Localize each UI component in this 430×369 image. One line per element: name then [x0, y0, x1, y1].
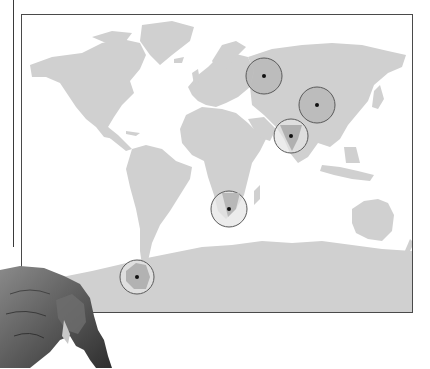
madagascar [254, 185, 260, 205]
dot-icon [262, 74, 266, 78]
dot-icon [289, 134, 293, 138]
dicynodont-illustration [0, 264, 120, 369]
indonesia [320, 165, 374, 181]
iceland [174, 57, 184, 63]
marker-south-africa[interactable] [211, 191, 247, 227]
dot-icon [227, 207, 231, 211]
north-america [30, 39, 146, 139]
philippines-borneo [344, 147, 360, 163]
marker-antarctica[interactable] [120, 260, 154, 294]
marker-china[interactable] [299, 87, 335, 123]
dot-icon [315, 103, 319, 107]
vertical-rule [13, 0, 14, 247]
marker-india[interactable] [274, 119, 308, 153]
dot-icon [135, 275, 139, 279]
south-america [126, 145, 192, 265]
australia [352, 199, 394, 241]
japan [372, 85, 384, 109]
marker-russia[interactable] [246, 58, 282, 94]
greenland [140, 21, 194, 65]
caribbean [126, 131, 140, 136]
central-america [106, 127, 132, 151]
